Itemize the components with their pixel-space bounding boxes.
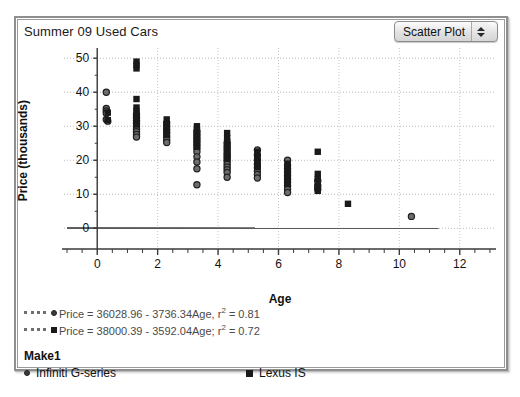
svg-text:4: 4	[215, 257, 222, 271]
legend-key-lexus[interactable]: Lexus IS	[246, 366, 306, 380]
triangle-down-icon[interactable]	[477, 33, 485, 37]
regression-equation-1: Price = 36028.96 - 3736.34Age, r2 = 0.81	[59, 306, 260, 320]
regression-legend: Price = 36028.96 - 3736.34Age, r2 = 0.81…	[24, 304, 260, 338]
triangle-up-icon[interactable]	[477, 27, 485, 31]
y-axis-title: Price (thousands)	[16, 100, 30, 201]
svg-text:30: 30	[76, 119, 90, 133]
square-marker-icon	[51, 327, 57, 333]
svg-text:12: 12	[453, 257, 467, 271]
plot-type-select[interactable]: Scatter Plot	[394, 21, 498, 42]
svg-text:6: 6	[275, 257, 282, 271]
regression-legend-row: Price = 38000.39 - 3592.04Age; r2 = 0.72	[24, 321, 260, 338]
svg-text:0: 0	[94, 257, 101, 271]
legend-group-title: Make1	[24, 349, 61, 363]
legend-key-label: Infiniti G-series	[36, 366, 116, 380]
square-marker-icon	[246, 370, 253, 377]
svg-text:0: 0	[83, 221, 90, 235]
stepper-arrows[interactable]	[471, 22, 489, 41]
circle-marker-icon	[51, 310, 57, 316]
svg-text:10: 10	[393, 257, 407, 271]
svg-text:10: 10	[76, 187, 90, 201]
svg-text:20: 20	[76, 153, 90, 167]
legend-key-infiniti[interactable]: Infiniti G-series	[24, 366, 116, 380]
legend-key-label: Lexus IS	[259, 366, 306, 380]
svg-text:2: 2	[154, 257, 161, 271]
scatter-plot-canvas: 01020304050024681012	[24, 42, 498, 274]
circle-marker-icon	[24, 370, 30, 376]
line-swatch-icon	[24, 328, 46, 331]
plot-svg: 01020304050024681012	[24, 42, 498, 274]
svg-text:8: 8	[336, 257, 343, 271]
line-swatch-icon	[24, 311, 46, 314]
svg-text:50: 50	[76, 51, 90, 65]
page-title: Summer 09 Used Cars	[24, 24, 158, 39]
svg-text:40: 40	[76, 85, 90, 99]
screenshot-root: Summer 09 Used Cars Scatter Plot 0102030…	[0, 0, 520, 397]
regression-equation-2: Price = 38000.39 - 3592.04Age; r2 = 0.72	[59, 323, 260, 337]
plot-type-select-value: Scatter Plot	[395, 25, 471, 39]
regression-legend-row: Price = 36028.96 - 3736.34Age, r2 = 0.81	[24, 304, 260, 321]
